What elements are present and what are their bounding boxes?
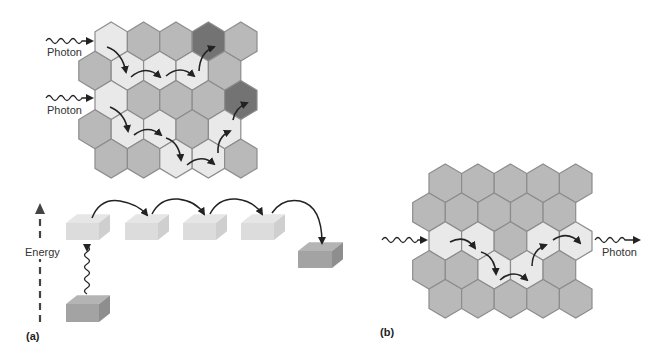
photon-label-emitted: Photon [602,246,637,258]
energy-level-blocks [66,214,343,322]
energy-block-light [183,214,227,240]
photon-wave-1 [46,39,92,44]
panel-b-label: (b) [380,326,394,338]
photon-wave-2 [46,96,92,101]
photon-label-1: Photon [47,46,82,58]
excitation-photon-wave [85,246,90,294]
emitted-photon-wave [595,238,639,243]
energy-block-light [66,214,110,240]
energy-axis-label: Energy [25,246,60,258]
panel-a-label: (a) [26,330,40,342]
incoming-photon-wave [382,238,426,243]
hex-grid-panel-a [79,22,257,178]
energy-block-dark [66,295,110,322]
photon-label-2: Photon [47,104,82,116]
energy-block-light [125,214,169,240]
hop-arrow [210,199,262,214]
hop-arrow [152,199,204,214]
energy-block-light [241,214,285,240]
hex-grid-panel-b [413,164,592,318]
energy-block-dark [298,242,343,268]
energy-axis-arrow [35,203,45,322]
energy-transfer-diagram: Photon Photon Energy (a) Photon (b) [0,0,669,354]
